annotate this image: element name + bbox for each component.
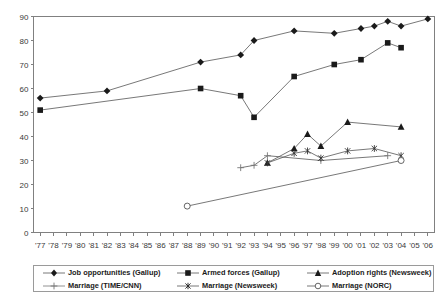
circle-open-icon xyxy=(307,281,329,291)
series-1 xyxy=(37,40,404,120)
legend-label: Marriage (Newsweek) xyxy=(202,281,277,290)
x-axis-tick-label: '82 xyxy=(102,241,113,250)
x-axis-tick-label: '94 xyxy=(262,241,273,250)
series-0 xyxy=(37,16,431,102)
x-axis-tick-label: '85 xyxy=(142,241,153,250)
x-axis-tick-label: '95 xyxy=(276,241,287,250)
y-axis-tick-label: 10 xyxy=(20,205,29,214)
y-axis-tick-label: 40 xyxy=(20,133,29,142)
legend-label: Job opportunities (Gallup) xyxy=(68,268,160,277)
y-axis-tick-label: 80 xyxy=(20,37,29,46)
x-axis-tick-label: '81 xyxy=(88,241,99,250)
x-axis-tick-label: '83 xyxy=(115,241,126,250)
x-axis-tick-label: '98 xyxy=(316,241,327,250)
legend-label: Armed forces (Gallup) xyxy=(202,268,280,277)
x-axis-tick-label: '90 xyxy=(209,241,220,250)
series-2 xyxy=(264,119,404,166)
legend-label: Marriage (TIME/CNN) xyxy=(68,281,142,290)
x-axis-tick-label: '04 xyxy=(396,241,407,250)
legend-label: Adoption rights (Newsweek) xyxy=(332,268,431,277)
x-axis-tick-label: '87 xyxy=(169,241,180,250)
x-axis-tick-label: '86 xyxy=(155,241,166,250)
x-axis-tick-label: '00 xyxy=(342,241,353,250)
y-axis-tick-label: 50 xyxy=(20,109,29,118)
plus-icon xyxy=(43,281,65,291)
square-filled-icon xyxy=(177,268,199,278)
legend-entry-marriage-time-cnn: Marriage (TIME/CNN) xyxy=(34,281,177,291)
y-axis-tick-label: 70 xyxy=(20,61,29,70)
x-axis-tick-label: '78 xyxy=(48,241,59,250)
legend-row-1: Job opportunities (Gallup) Armed forces … xyxy=(34,266,433,279)
x-axis-tick-label: '05 xyxy=(409,241,420,250)
x-axis-tick-label: '97 xyxy=(302,241,313,250)
asterisk-icon xyxy=(177,281,199,291)
x-axis-tick-label: '77 xyxy=(35,241,46,250)
x-axis-tick-label: '80 xyxy=(75,241,86,250)
legend-entry-marriage-norc: Marriage (NORC) xyxy=(307,281,433,291)
chart-legend: Job opportunities (Gallup) Armed forces … xyxy=(33,265,434,292)
x-axis-tick-label: '99 xyxy=(329,241,340,250)
line-chart: 0102030405060708090'77'78'79'80'81'82'83… xyxy=(0,0,442,296)
x-axis-tick-label: '89 xyxy=(195,241,206,250)
plot-svg: 0102030405060708090'77'78'79'80'81'82'83… xyxy=(0,0,442,296)
legend-entry-job-opportunities-gallup: Job opportunities (Gallup) xyxy=(34,268,177,278)
legend-entry-adoption-rights-newsweek: Adoption rights (Newsweek) xyxy=(307,268,433,278)
diamond-filled-icon xyxy=(43,268,65,278)
triangle-filled-icon xyxy=(307,268,329,278)
legend-row-2: Marriage (TIME/CNN) Marriage (Newsweek) xyxy=(34,279,433,292)
x-axis-tick-label: '79 xyxy=(62,241,73,250)
y-axis-tick-label: 20 xyxy=(20,181,29,190)
x-axis-tick-label: '96 xyxy=(289,241,300,250)
legend-entry-armed-forces-gallup: Armed forces (Gallup) xyxy=(177,268,307,278)
x-axis-tick-label: '03 xyxy=(382,241,393,250)
x-axis-tick-label: '93 xyxy=(249,241,260,250)
y-axis-tick-label: 90 xyxy=(20,13,29,22)
y-axis-tick-label: 30 xyxy=(20,157,29,166)
legend-entry-marriage-newsweek: Marriage (Newsweek) xyxy=(177,281,307,291)
y-axis-tick-label: 60 xyxy=(20,85,29,94)
legend-label: Marriage (NORC) xyxy=(332,281,392,290)
x-axis-tick-label: '02 xyxy=(369,241,380,250)
x-axis-tick-label: '01 xyxy=(356,241,367,250)
y-axis-tick-label: 0 xyxy=(24,229,29,238)
x-axis-tick-label: '88 xyxy=(182,241,193,250)
x-axis-tick-label: '91 xyxy=(222,241,233,250)
x-axis-tick-label: '06 xyxy=(423,241,434,250)
x-axis-tick-label: '92 xyxy=(235,241,246,250)
x-axis-tick-label: '84 xyxy=(129,241,140,250)
series-5 xyxy=(184,158,404,210)
series-3 xyxy=(237,152,391,171)
